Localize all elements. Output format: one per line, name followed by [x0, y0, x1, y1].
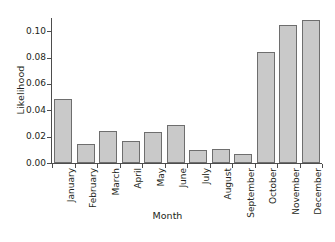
x-axis-tick-mark	[300, 164, 301, 168]
x-axis-tick-label: September	[247, 168, 256, 234]
y-axis-tick-mark	[47, 31, 51, 32]
x-axis-tick-mark	[52, 164, 53, 168]
bar	[279, 25, 297, 163]
y-axis-tick-mark	[47, 163, 51, 164]
x-axis-tick-label: February	[89, 168, 98, 234]
y-axis-tick-mark	[47, 58, 51, 59]
bar	[189, 150, 207, 163]
y-axis-tick-label: 0.04	[22, 106, 46, 115]
x-axis-tick-label: June	[179, 168, 188, 234]
x-axis-tick-mark	[255, 164, 256, 168]
bar-chart-figure: Likelihood 0.000.020.040.060.080.10 Janu…	[0, 0, 335, 242]
bar	[257, 52, 275, 163]
bar	[54, 99, 72, 163]
x-axis-tick-labels: JanuaryFebruaryMarchAprilMayJuneJulyAugu…	[52, 168, 322, 238]
bar	[302, 20, 320, 163]
x-axis-tick-label: January	[67, 168, 76, 234]
bar	[212, 149, 230, 164]
bar	[77, 144, 95, 164]
y-axis-tick-label: 0.06	[22, 79, 46, 88]
x-axis-tick-mark	[165, 164, 166, 168]
x-axis-label: Month	[0, 210, 335, 222]
bar-series	[52, 18, 322, 163]
bar	[167, 125, 185, 163]
x-axis-tick-mark	[322, 164, 323, 168]
bar	[144, 132, 162, 163]
x-axis-tick-mark	[210, 164, 211, 168]
x-axis-tick-mark	[97, 164, 98, 168]
y-axis-tick-mark	[47, 137, 51, 138]
x-axis-tick-label: May	[157, 168, 166, 234]
bar	[234, 154, 252, 163]
y-axis-tick-label: 0.02	[22, 132, 46, 141]
x-axis-tick-label: August	[224, 168, 233, 234]
x-axis-tick-label: December	[314, 168, 323, 234]
y-axis-tick-label: 0.00	[22, 159, 46, 168]
x-axis-tick-mark	[232, 164, 233, 168]
x-axis-tick-label: July	[202, 168, 211, 234]
y-axis-tick-mark	[47, 84, 51, 85]
x-axis-tick-mark	[142, 164, 143, 168]
y-axis-tick-label: 0.08	[22, 53, 46, 62]
x-axis-tick-label: March	[112, 168, 121, 234]
y-axis-tick-labels: 0.000.020.040.060.080.10	[22, 0, 46, 242]
bar	[122, 141, 140, 163]
y-axis-tick-label: 0.10	[22, 27, 46, 36]
y-axis-tick-mark	[47, 110, 51, 111]
x-axis-tick-label: April	[134, 168, 143, 234]
x-axis-tick-label: October	[269, 168, 278, 234]
x-axis-tick-label: November	[292, 168, 301, 234]
x-axis-tick-mark	[120, 164, 121, 168]
x-axis-tick-mark	[75, 164, 76, 168]
x-axis-tick-mark	[277, 164, 278, 168]
x-axis-tick-mark	[187, 164, 188, 168]
bar	[99, 131, 117, 163]
